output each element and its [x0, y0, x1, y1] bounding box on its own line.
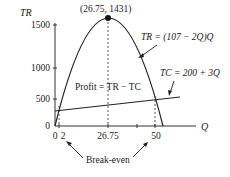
arrow-head-icon — [138, 53, 144, 58]
tr-equation-label: TR = (107 − 2Q)Q — [141, 32, 214, 43]
tc-line — [55, 97, 180, 111]
y-tick-label: 0 — [45, 121, 50, 131]
peak-label: (26.75, 1431) — [80, 4, 131, 15]
x-tick-label: 0 — [53, 131, 58, 141]
break-even-arrow-left — [68, 143, 83, 158]
x-tick-label: 26.75 — [97, 131, 119, 141]
x-axis-title: Q — [201, 121, 209, 132]
maximum-point — [105, 15, 111, 21]
break-even-arrow-right — [133, 144, 146, 157]
break-even-label: Break-even — [86, 155, 130, 165]
x-tick-label: 50 — [151, 131, 161, 141]
arrow-head-icon — [66, 141, 72, 146]
arrow-head-icon — [168, 90, 172, 96]
y-tick-label: 1000 — [31, 63, 50, 73]
break-even-chart: TR 1500 1000 500 0 0 2 26.75 50 Q (26.75… — [0, 0, 230, 177]
y-tick-label: 500 — [36, 94, 51, 104]
y-tick-label: 1500 — [31, 20, 50, 30]
tc-equation-label: TC = 200 + 3Q — [160, 68, 220, 78]
x-tick-label: 2 — [61, 131, 66, 141]
y-axis-title: TR — [20, 7, 32, 18]
profit-label: Profit = TR − TC — [75, 82, 141, 92]
